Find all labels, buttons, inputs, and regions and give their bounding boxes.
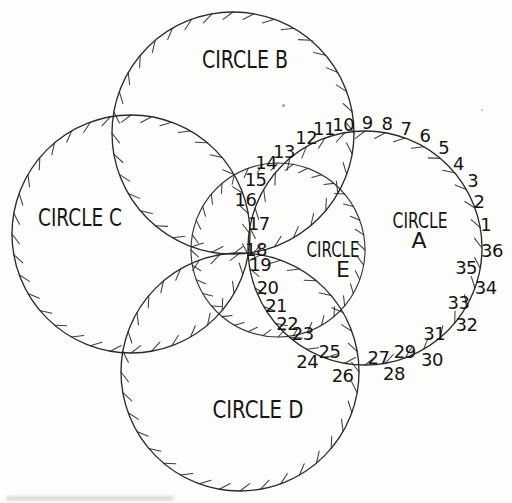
position-number-25: 25 (319, 341, 341, 362)
tick-mark (173, 236, 185, 237)
tick-mark (155, 226, 167, 227)
tick-mark (137, 313, 139, 325)
tick-mark (221, 183, 222, 193)
tick-mark (326, 198, 327, 210)
tick-mark (239, 263, 243, 275)
tick-mark (140, 55, 141, 67)
tick-mark (233, 281, 235, 293)
tick-mark (178, 131, 190, 133)
tick-mark (285, 164, 293, 170)
tick-mark (281, 28, 293, 29)
tick-mark (112, 133, 119, 143)
position-number-6: 6 (420, 125, 431, 146)
circle-c-group: CIRCLE C (12, 115, 250, 353)
tick-mark (128, 331, 132, 343)
position-number-34: 34 (475, 277, 497, 298)
tick-mark (160, 122, 172, 126)
circle-e-label: E (336, 257, 350, 282)
tick-mark (287, 269, 299, 271)
tick-mark (192, 235, 198, 243)
position-number-33: 33 (448, 292, 470, 313)
tick-mark (131, 346, 141, 353)
position-number-30: 30 (421, 349, 443, 370)
tick-mark (211, 194, 212, 204)
ink-speck (282, 104, 285, 107)
tick-mark (263, 19, 275, 23)
position-number-8: 8 (381, 113, 392, 134)
tick-mark (12, 234, 19, 244)
tick-mark (243, 14, 254, 20)
circle-c-label: CIRCLE C (38, 203, 122, 232)
tick-mark (219, 484, 230, 490)
tick-mark (110, 346, 121, 352)
position-number-29: 29 (394, 341, 416, 362)
circle-d-group: CIRCLE D (121, 253, 359, 491)
tick-mark (114, 112, 120, 123)
position-number-15: 15 (245, 169, 267, 190)
circle-d-label: CIRCLE D (213, 395, 304, 424)
tick-mark (121, 372, 128, 382)
position-number-36: 36 (481, 240, 503, 261)
tick-mark (347, 143, 353, 154)
tick-mark (235, 323, 245, 326)
tick-mark (345, 358, 356, 364)
tick-mark (223, 12, 233, 19)
tick-mark (335, 193, 345, 194)
tick-mark (222, 298, 223, 310)
circle-c-outline (12, 115, 250, 353)
tick-mark (355, 271, 359, 280)
tick-mark (203, 207, 206, 217)
tick-mark (334, 307, 335, 317)
five-circles-diagram: CIRCLE BCIRCLE CCIRCLE DCIRCLEACIRCLEE12… (0, 0, 512, 503)
position-number-4: 4 (453, 153, 464, 174)
tick-mark (344, 296, 345, 306)
tick-mark (55, 325, 67, 326)
position-number-9: 9 (362, 112, 373, 133)
tick-mark (298, 40, 310, 41)
tick-mark (14, 213, 20, 224)
tick-mark (263, 330, 271, 336)
tick-mark (348, 401, 352, 413)
tick-mark (299, 168, 308, 172)
tick-mark (195, 142, 207, 143)
ink-speck (311, 40, 314, 43)
position-number-16: 16 (234, 189, 256, 210)
position-number-28: 28 (383, 363, 405, 384)
tick-mark (351, 284, 354, 294)
tick-mark (119, 92, 123, 104)
tick-mark (248, 327, 257, 331)
overlapping-circles-drawing: CIRCLE BCIRCLE CCIRCLE DCIRCLEACIRCLEE12… (0, 0, 512, 503)
circle-a-position-numbers: 1234567891011121314151617181920212223242… (234, 112, 503, 386)
tick-mark (128, 73, 129, 85)
tick-mark (39, 158, 40, 170)
tick-mark (312, 175, 322, 178)
position-number-32: 32 (455, 314, 477, 335)
tick-mark (343, 163, 347, 175)
position-number-31: 31 (423, 323, 445, 344)
tick-mark (192, 243, 204, 247)
tick-mark (411, 147, 423, 149)
ink-speck (481, 109, 483, 111)
tick-mark (72, 336, 84, 338)
tick-mark (90, 342, 102, 346)
tick-mark (307, 348, 319, 350)
scan-artifact (6, 496, 174, 501)
circle-d-outline (121, 253, 359, 491)
position-number-26: 26 (332, 365, 354, 386)
position-number-24: 24 (296, 351, 318, 372)
position-number-1: 1 (480, 214, 491, 235)
tick-mark (121, 115, 131, 122)
tick-mark (324, 183, 334, 184)
tick-mark (141, 117, 152, 123)
position-number-17: 17 (248, 213, 270, 234)
circle-e-label: CIRCLE (307, 237, 360, 262)
position-number-2: 2 (474, 191, 485, 212)
tick-mark (304, 280, 316, 281)
tick-mark (196, 220, 200, 229)
position-number-5: 5 (438, 137, 449, 158)
tick-mark (181, 474, 193, 476)
position-number-12: 12 (295, 127, 317, 148)
circle-b-label: CIRCLE B (202, 45, 288, 74)
position-number-19: 19 (249, 254, 271, 275)
tick-mark (148, 296, 149, 308)
